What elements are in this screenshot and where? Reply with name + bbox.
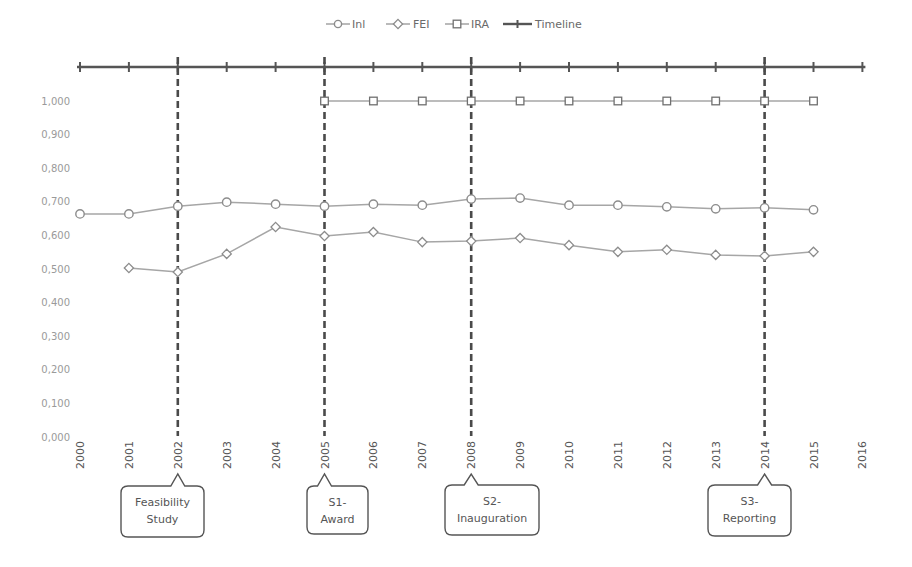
x-tick-label: 2004 [270,441,283,469]
callout-line-2: Award [320,513,354,526]
data-point-square-icon [516,97,524,105]
data-point-circle-icon [271,200,279,208]
y-tick-label: 0,800 [41,163,70,174]
x-tick-label: 2015 [808,441,821,469]
data-point-diamond-icon [711,250,720,259]
y-tick-label: 1,000 [41,96,70,107]
line-chart-svg: InlFEIIRATimeline 0,0000,1000,2000,3000,… [0,0,912,567]
legend: InlFEIIRATimeline [326,18,582,31]
series-inl [76,194,818,218]
legend-item-inl[interactable]: Inl [326,18,365,31]
legend-item-timeline[interactable]: Timeline [503,18,582,31]
y-tick-label: 0,200 [41,364,70,375]
data-point-diamond-icon [564,241,573,250]
data-point-circle-icon [174,202,182,210]
data-point-circle-icon [223,198,231,206]
callout-award: S1-Award [307,474,368,534]
data-point-diamond-icon [222,249,231,258]
legend-circle-icon [334,20,341,27]
x-tick-label: 2016 [856,441,869,469]
series-ira [321,97,818,105]
data-point-diamond-icon [809,247,818,256]
chart: InlFEIIRATimeline 0,0000,1000,2000,3000,… [0,0,912,567]
data-point-diamond-icon [271,222,280,231]
y-tick-label: 0,500 [41,264,70,275]
data-point-square-icon [467,97,475,105]
data-point-circle-icon [467,195,475,203]
x-tick-label: 2009 [514,441,527,469]
callout-line-1: S2- [483,495,501,508]
legend-diamond-icon [393,19,402,28]
data-point-circle-icon [516,194,524,202]
callout-line-2: Reporting [723,512,776,525]
data-point-circle-icon [809,206,817,214]
data-point-circle-icon [712,205,720,213]
callout-line-1: S1- [329,496,347,509]
x-tick-label: 2005 [319,441,332,469]
x-tick-label: 2002 [172,441,185,469]
data-point-square-icon [321,97,329,105]
data-point-square-icon [663,97,671,105]
y-tick-label: 0,300 [41,331,70,342]
data-point-square-icon [419,97,427,105]
x-tick-label: 2001 [123,441,136,469]
data-point-circle-icon [418,201,426,209]
data-point-square-icon [565,97,573,105]
data-point-circle-icon [760,204,768,212]
data-point-diamond-icon [760,251,769,260]
y-tick-label: 0,400 [41,297,70,308]
data-point-circle-icon [369,200,377,208]
series-line [80,198,814,214]
series [76,97,818,276]
x-tick-label: 2011 [612,441,625,469]
legend-item-ira[interactable]: IRA [445,18,489,31]
data-point-diamond-icon [320,231,329,240]
x-tick-label: 2012 [661,441,674,469]
callout-line-2: Inauguration [457,512,527,525]
data-point-circle-icon [614,201,622,209]
data-point-square-icon [614,97,622,105]
callout-inauguration: S2-Inauguration [445,474,539,535]
y-tick-label: 0,600 [41,230,70,241]
milestone-callouts: FeasibilityStudyS1-AwardS2-InaugurationS… [121,474,791,537]
callout-line-1: Feasibility [135,496,190,509]
y-tick-label: 0,900 [41,129,70,140]
data-point-diamond-icon [613,247,622,256]
data-point-diamond-icon [467,237,476,246]
callout-reporting: S3-Reporting [708,474,791,536]
data-point-diamond-icon [369,227,378,236]
x-axis: 2000200120022003200420052006200720082009… [74,441,869,469]
data-point-diamond-icon [662,245,671,254]
legend-label: Timeline [534,18,582,31]
y-tick-label: 0,700 [41,196,70,207]
legend-item-fei[interactable]: FEI [386,18,430,31]
data-point-circle-icon [565,201,573,209]
data-point-square-icon [810,97,818,105]
x-tick-label: 2008 [465,441,478,469]
x-tick-label: 2006 [367,441,380,469]
data-point-circle-icon [663,203,671,211]
data-point-circle-icon [76,210,84,218]
legend-label: IRA [471,18,489,31]
data-point-diamond-icon [124,263,133,272]
legend-label: FEI [413,18,430,31]
y-axis: 0,0000,1000,2000,3000,4000,5000,6000,700… [41,96,70,443]
data-point-diamond-icon [418,238,427,247]
callout-line-2: Study [147,513,179,526]
legend-square-icon [453,20,461,28]
data-point-circle-icon [320,202,328,210]
y-tick-label: 0,100 [41,398,70,409]
data-point-circle-icon [125,210,133,218]
callout-study: FeasibilityStudy [121,474,204,537]
x-tick-label: 2013 [710,441,723,469]
x-tick-label: 2003 [221,441,234,469]
data-point-square-icon [712,97,720,105]
y-tick-label: 0,000 [41,432,70,443]
callout-line-1: S3- [741,495,759,508]
x-tick-label: 2014 [759,441,772,469]
data-point-square-icon [761,97,769,105]
x-tick-label: 2000 [74,441,87,469]
data-point-diamond-icon [516,233,525,242]
x-tick-label: 2007 [416,441,429,469]
data-point-square-icon [370,97,378,105]
